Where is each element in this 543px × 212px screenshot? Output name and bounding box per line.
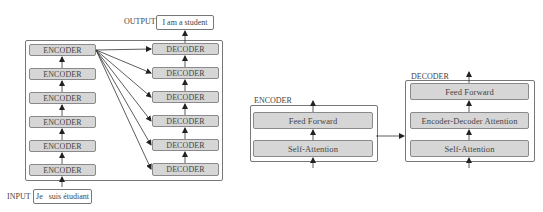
- decoder-feed-forward-layer: Feed Forward: [410, 83, 529, 100]
- encoder-block-5: ENCODER: [29, 140, 96, 152]
- input-box: Je suis étudiant: [33, 189, 92, 204]
- decoder-encoder-decoder-attention-layer: Encoder-Decoder Attention: [410, 112, 529, 129]
- decoder-block-4: DECODER: [152, 115, 219, 127]
- decoder-block-5: DECODER: [152, 139, 219, 151]
- decoder-block-2: DECODER: [152, 67, 219, 79]
- output-box: I am a student: [156, 15, 214, 30]
- encoder-self-attention-layer: Self-Attention: [253, 140, 373, 157]
- encoder-block-3: ENCODER: [29, 92, 96, 104]
- decoder-block-1: DECODER: [152, 43, 219, 55]
- encoder-block-6: ENCODER: [29, 164, 96, 176]
- decoder-block-6: DECODER: [152, 163, 219, 176]
- decoder-self-attention-layer: Self-Attention: [410, 140, 529, 157]
- output-label: OUTPUT: [124, 17, 156, 26]
- encoder-block-2: ENCODER: [29, 68, 96, 80]
- encoder-block-1: ENCODER: [29, 44, 96, 56]
- encoder-decoder-stack-frame: [25, 40, 223, 181]
- encoder-feed-forward-layer: Feed Forward: [253, 112, 373, 129]
- input-label: INPUT: [7, 192, 31, 201]
- encoder-detail-title: ENCODER: [254, 96, 292, 105]
- encoder-block-4: ENCODER: [29, 116, 96, 128]
- decoder-block-3: DECODER: [152, 91, 219, 103]
